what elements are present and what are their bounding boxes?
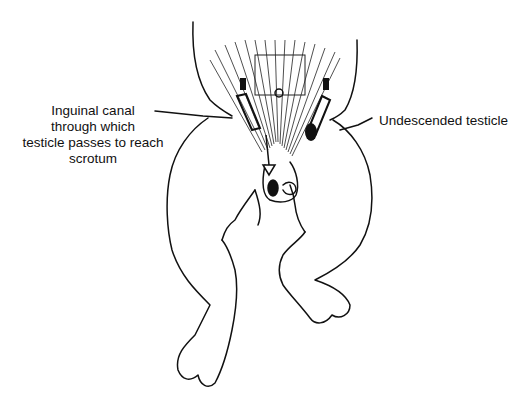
torso-left-outline: [193, 22, 232, 116]
undescended-testicle: [305, 123, 317, 141]
left-leg-outline: [167, 118, 237, 386]
right-canal-top: [323, 78, 329, 90]
torso-right-outline: [330, 40, 357, 120]
left-canal-top: [240, 78, 246, 90]
infant-illustration: [0, 0, 526, 394]
leader-line-inguinal: [155, 111, 232, 118]
descended-testicle: [268, 180, 278, 196]
left-thigh-inner: [255, 190, 260, 225]
penis-outline: [283, 182, 296, 194]
left-knee-inner: [222, 190, 255, 240]
left-inguinal-canal: [237, 94, 260, 130]
right-leg-outline: [279, 120, 372, 323]
